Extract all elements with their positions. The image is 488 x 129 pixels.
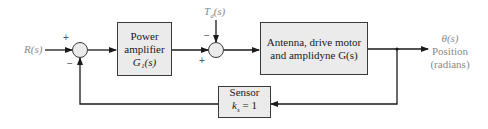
sj2-plus-sign: + bbox=[199, 55, 205, 66]
power-amplifier-line1: Power bbox=[130, 30, 158, 43]
disturbance-label: Td(s) bbox=[204, 5, 225, 23]
plant-line1: Antenna, drive motor bbox=[267, 36, 361, 49]
g1-label: G₁(s) bbox=[133, 56, 156, 68]
theta-label: θ(s) bbox=[441, 32, 458, 44]
sensor-block: Sensor ks = 1 bbox=[218, 86, 271, 118]
output-position: Position bbox=[430, 45, 470, 58]
plant-block: Antenna, drive motor and amplidyne G(s) bbox=[260, 22, 368, 75]
sensor-gain-value: = 1 bbox=[240, 99, 257, 111]
power-amplifier-transfer-function: G₁(s) bbox=[133, 56, 156, 69]
power-amplifier-line2: amplifier bbox=[124, 43, 164, 56]
power-amplifier-block: Power amplifier G₁(s) bbox=[117, 22, 172, 76]
input-label-text: R(s) bbox=[24, 43, 42, 55]
sensor-line1: Sensor bbox=[230, 86, 260, 99]
output-symbol: θ(s) bbox=[430, 32, 470, 45]
sj2-minus-sign: − bbox=[204, 30, 210, 41]
summing-junction-1 bbox=[73, 43, 88, 58]
input-label: R(s) bbox=[24, 43, 42, 56]
summing-junction-2 bbox=[209, 43, 224, 58]
output-label: θ(s) Position (radians) bbox=[430, 32, 470, 71]
output-units: (radians) bbox=[430, 58, 470, 71]
plant-line2: and amplidyne G(s) bbox=[270, 49, 357, 62]
sensor-gain: ks = 1 bbox=[232, 99, 257, 117]
disturbance-suffix: (s) bbox=[214, 5, 226, 17]
sj1-plus-sign: + bbox=[63, 32, 69, 43]
sj1-minus-sign: − bbox=[67, 58, 73, 69]
